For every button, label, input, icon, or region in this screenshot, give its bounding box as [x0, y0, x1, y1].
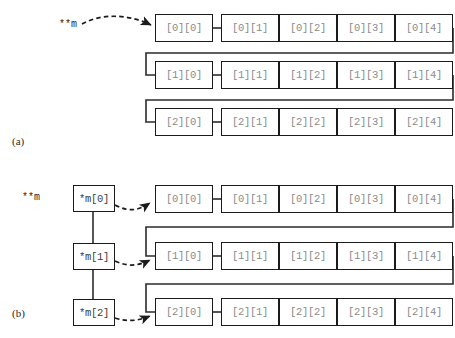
pointer-arrow-b-row2 [115, 316, 150, 320]
cell-a-0-4: [0][4] [395, 14, 453, 42]
cell-b-1-3: [1][3] [337, 242, 395, 270]
panel-a-pointer-label: **m [59, 19, 77, 30]
cell-b-0-4: [0][4] [395, 185, 453, 213]
cell-b-0-1: [0][1] [221, 185, 279, 213]
panel-b-pointer-label: **m [22, 192, 40, 203]
pointer-cell-b-0: *m[0] [73, 185, 115, 212]
pointer-cell-b-2: *m[2] [73, 299, 115, 326]
cell-a-2-4: [2][4] [395, 108, 453, 136]
cell-b-1-0: [1][0] [155, 242, 213, 270]
cell-a-1-3: [1][3] [337, 61, 395, 89]
pointer-arrow-a [82, 16, 151, 25]
cell-a-2-0: [2][0] [155, 108, 213, 136]
cell-a-2-2: [2][2] [279, 108, 337, 136]
cell-a-0-3: [0][3] [337, 14, 395, 42]
cell-a-1-0: [1][0] [155, 61, 213, 89]
pointer-arrow-b-row1 [115, 260, 150, 265]
cell-b-2-1: [2][1] [221, 298, 279, 326]
cell-b-0-0: [0][0] [155, 185, 213, 213]
cell-b-1-2: [1][2] [279, 242, 337, 270]
cell-a-1-4: [1][4] [395, 61, 453, 89]
panel-b-label: (b) [12, 307, 25, 319]
cell-a-1-2: [1][2] [279, 61, 337, 89]
pointer-cell-b-1: *m[1] [73, 243, 115, 270]
cell-a-1-1: [1][1] [221, 61, 279, 89]
cell-a-0-1: [0][1] [221, 14, 279, 42]
figure-canvas: **m (a) [0][0] [0][1] [0][2] [0][3] [0][… [0, 0, 455, 338]
cell-b-2-2: [2][2] [279, 298, 337, 326]
cell-a-2-3: [2][3] [337, 108, 395, 136]
cell-b-1-4: [1][4] [395, 242, 453, 270]
panel-a-label: (a) [12, 135, 24, 147]
cell-b-0-2: [0][2] [279, 185, 337, 213]
cell-b-2-4: [2][4] [395, 298, 453, 326]
pointer-arrow-b-row0 [115, 203, 150, 210]
cell-b-2-3: [2][3] [337, 298, 395, 326]
cell-b-2-0: [2][0] [155, 298, 213, 326]
cell-a-0-2: [0][2] [279, 14, 337, 42]
cell-b-1-1: [1][1] [221, 242, 279, 270]
cell-a-0-0: [0][0] [155, 14, 213, 42]
cell-b-0-3: [0][3] [337, 185, 395, 213]
connector-layer [0, 0, 455, 338]
cell-a-2-1: [2][1] [221, 108, 279, 136]
